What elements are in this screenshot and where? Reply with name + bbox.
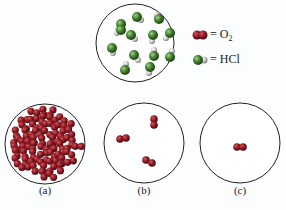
hcl-container (96, 4, 175, 82)
panel-label-b: (b) (129, 184, 159, 196)
panel-label-c: (c) (225, 184, 255, 196)
panel-label-a: (a) (30, 184, 60, 196)
container-a (5, 104, 85, 184)
container-b (104, 103, 184, 183)
container-c (200, 103, 280, 183)
o2-legend-icon (193, 31, 208, 40)
o2-legend-label: = O2 (210, 27, 232, 43)
diagram-canvas (0, 0, 286, 210)
hcl-legend-label: = HCl (210, 52, 240, 67)
hcl-legend-icon (193, 55, 208, 65)
